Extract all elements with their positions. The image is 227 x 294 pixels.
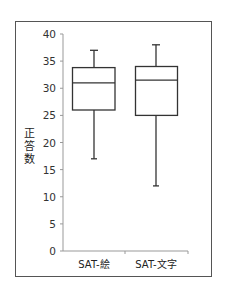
y-tick-label: 5 [49, 218, 56, 230]
x-category-label: SAT-絵 [78, 258, 109, 270]
box-sat-e [73, 50, 116, 159]
x-category-label: SAT-文字 [135, 258, 176, 270]
y-tick-label: 30 [43, 82, 56, 94]
boxplot-chart: 0 5 10 15 20 25 30 35 40 正 答 数 SAT-絵 SAT… [0, 0, 227, 294]
y-tick-label: 35 [43, 55, 56, 67]
iqr-box [73, 68, 116, 110]
y-axis-title-char: 数 [24, 153, 35, 166]
y-tick-label: 20 [43, 137, 56, 149]
y-tick-label: 10 [43, 191, 56, 203]
y-tick-label: 0 [49, 245, 56, 257]
y-tick-label: 25 [43, 109, 56, 121]
y-axis-title-char: 答 [24, 139, 35, 153]
y-tick-label: 40 [43, 28, 56, 40]
iqr-box [136, 67, 178, 116]
y-axis-title-char: 正 [24, 127, 35, 140]
y-tick-label: 15 [43, 164, 56, 176]
box-sat-moji [136, 45, 178, 186]
